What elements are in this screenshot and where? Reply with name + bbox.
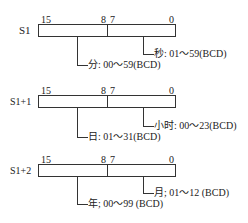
- high-byte-leader-v: [77, 177, 78, 204]
- low-byte-leader-h: [143, 54, 154, 55]
- low-byte-leader-h: [143, 193, 154, 194]
- low-byte-leader-v: [143, 108, 144, 126]
- register-name: S1+1: [10, 96, 31, 107]
- register-s1-plus-2: 15 8 7 0 S1+2 月; 01～12 (BCD) 年; 00～99 (B…: [0, 148, 248, 222]
- register-name: S1: [19, 25, 31, 36]
- low-byte-leader-v: [143, 37, 144, 54]
- high-byte-leader-v: [77, 108, 78, 137]
- high-byte-field: 分: 00～59(BCD): [88, 60, 161, 70]
- register-s1: 15 8 7 0 S1 秒: 01～59(BCD) 分: 00～59(BCD): [0, 0, 248, 74]
- byte-divider: [107, 164, 108, 177]
- high-byte-leader-h: [77, 65, 88, 66]
- low-byte-field: 小时: 00～23(BCD): [154, 121, 237, 131]
- low-byte-field: 秒: 01～59(BCD): [154, 49, 227, 59]
- byte-divider: [107, 95, 108, 108]
- low-byte-leader-h: [143, 126, 154, 127]
- low-byte-field: 月; 01～12 (BCD): [154, 188, 229, 198]
- high-byte-field: 日: 01～31(BCD): [88, 132, 161, 142]
- high-byte-leader-h: [77, 137, 88, 138]
- low-byte-leader-v: [143, 177, 144, 193]
- high-byte-field: 年; 00～99 (BCD): [88, 199, 163, 209]
- high-byte-leader-h: [77, 204, 88, 205]
- high-byte-leader-v: [77, 37, 78, 65]
- register-name: S1+2: [10, 165, 31, 176]
- register-s1-plus-1: 15 8 7 0 S1+1 小时: 00～23(BCD) 日: 01～31(BC…: [0, 75, 248, 149]
- byte-divider: [107, 24, 108, 37]
